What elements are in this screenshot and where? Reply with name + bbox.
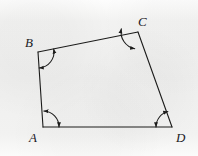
edge-b-c: [38, 32, 138, 52]
vertex-label-b: B: [25, 36, 33, 49]
edge-a-b: [38, 52, 43, 127]
vertex-label-c: C: [138, 15, 147, 28]
vertex-label-d: D: [176, 131, 185, 144]
angle-mark-a: [44, 111, 59, 127]
angle-mark-c: [121, 29, 135, 49]
edge-group: [38, 32, 172, 127]
geometry-figure: A B C D: [0, 0, 198, 156]
edge-c-d: [138, 32, 172, 127]
angle-mark-group: [39, 29, 168, 127]
vertex-label-a: A: [29, 131, 37, 144]
angle-mark-d: [156, 112, 168, 127]
